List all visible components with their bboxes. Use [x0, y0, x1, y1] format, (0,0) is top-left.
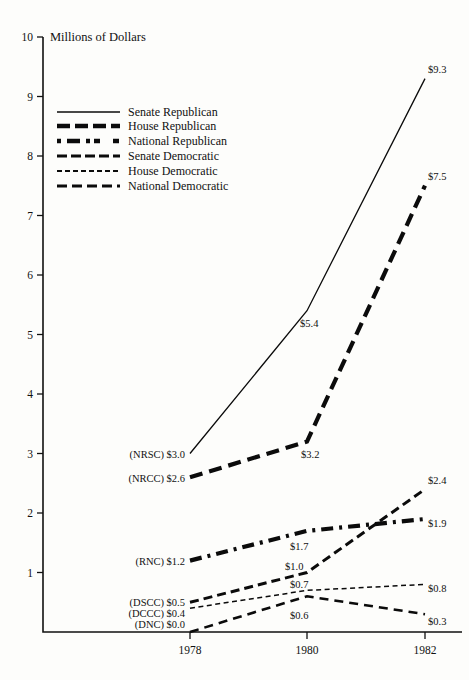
- y-axis-ticks: [37, 37, 43, 573]
- legend-label-national-republican: National Republican: [128, 134, 227, 148]
- legend-label-senate-republican: Senate Republican: [128, 105, 218, 119]
- label-nrsc-1980: $5.4: [300, 318, 319, 329]
- legend-label-house-democratic: House Democratic: [128, 164, 218, 178]
- y-tick-4: 4: [27, 388, 33, 400]
- label-rnc-1982: $1.9: [428, 518, 446, 529]
- label-dccc-1982: $0.8: [428, 583, 446, 594]
- label-dscc-1982: $2.4: [428, 475, 447, 486]
- y-tick-7: 7: [27, 210, 33, 222]
- chart-legend: Senate Republican House Republican Natio…: [57, 105, 228, 193]
- y-tick-5: 5: [27, 329, 33, 341]
- label-dscc-1980: $1.0: [285, 561, 303, 572]
- legend-item-house-republican[interactable]: House Republican: [57, 119, 216, 133]
- y-tick-10: 10: [22, 31, 34, 43]
- legend-item-house-democratic[interactable]: House Democratic: [57, 164, 218, 178]
- label-nrcc-1980: $3.2: [301, 449, 319, 460]
- legend-item-senate-republican[interactable]: Senate Republican: [57, 105, 218, 119]
- x-tick-1980: 1980: [296, 644, 319, 656]
- x-axis-tick-labels: 1978 1980 1982: [179, 644, 437, 656]
- legend-item-senate-democratic[interactable]: Senate Democratic: [57, 149, 219, 163]
- y-tick-1: 1: [27, 567, 33, 579]
- x-tick-1978: 1978: [179, 644, 202, 656]
- label-rnc-1978: (RNC) $1.2: [135, 556, 185, 568]
- data-labels-1982: $9.3 $7.5 $2.4 $1.9 $0.8 $0.3: [428, 64, 447, 627]
- label-nrcc-1982: $7.5: [428, 171, 446, 182]
- x-axis-ticks: [190, 632, 425, 639]
- y-tick-6: 6: [27, 269, 33, 281]
- series-line-national-republican: [190, 519, 425, 561]
- label-dccc-1978: (DCCC) $0.4: [128, 608, 185, 620]
- y-tick-2: 2: [27, 507, 33, 519]
- series-line-house-republican: [190, 186, 425, 478]
- line-chart: 10 9 8 7 6 5 4 3 2 1 Millions of Dollars…: [0, 0, 469, 680]
- y-tick-3: 3: [27, 448, 33, 460]
- data-labels-1978: (NRSC) $3.0 (NRCC) $2.6 (RNC) $1.2 (DSCC…: [128, 449, 185, 632]
- label-dnc-1980: $0.6: [290, 610, 308, 621]
- legend-label-national-democratic: National Democratic: [128, 179, 228, 193]
- x-tick-1982: 1982: [414, 644, 437, 656]
- y-tick-9: 9: [27, 91, 33, 103]
- y-axis-title: Millions of Dollars: [50, 30, 146, 44]
- legend-item-national-democratic[interactable]: National Democratic: [57, 179, 228, 193]
- label-nrsc-1978: (NRSC) $3.0: [130, 449, 185, 461]
- legend-item-national-republican[interactable]: National Republican: [57, 134, 227, 148]
- y-tick-8: 8: [27, 150, 33, 162]
- legend-label-senate-democratic: Senate Democratic: [128, 149, 219, 163]
- label-dnc-1978: (DNC) $0.0: [135, 619, 185, 631]
- y-axis-tick-labels: 10 9 8 7 6 5 4 3 2 1: [22, 31, 34, 579]
- label-rnc-1980: $1.7: [290, 541, 308, 552]
- label-nrcc-1978: (NRCC) $2.6: [128, 473, 185, 485]
- label-dccc-1980: $0.7: [290, 579, 308, 590]
- chart-container: 10 9 8 7 6 5 4 3 2 1 Millions of Dollars…: [0, 0, 469, 680]
- label-dnc-1982: $0.3: [428, 616, 446, 627]
- label-nrsc-1982: $9.3: [428, 64, 446, 75]
- legend-label-house-republican: House Republican: [128, 119, 216, 133]
